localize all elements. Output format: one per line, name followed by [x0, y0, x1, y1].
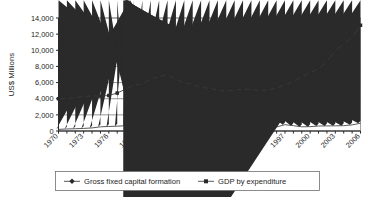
data-point-marker	[216, 88, 220, 92]
data-point-marker	[342, 42, 346, 46]
data-point-marker	[107, 94, 111, 98]
data-point-marker	[149, 77, 153, 81]
y-tick-label: 8,000	[35, 62, 54, 71]
data-point-marker	[124, 87, 128, 91]
y-tick-label: 2,000	[35, 111, 54, 120]
chart-figure: 02,0004,0006,0008,00010,00012,00014,000 …	[0, 0, 376, 197]
legend-marker	[204, 179, 208, 183]
y-tick-label: 6,000	[35, 78, 54, 87]
data-point-marker	[317, 67, 321, 71]
data-point-marker	[199, 86, 203, 90]
data-point-marker	[115, 91, 119, 95]
data-point-marker	[141, 82, 145, 86]
data-point-marker	[74, 96, 78, 100]
data-point-marker	[266, 88, 270, 92]
data-point-marker	[258, 89, 262, 93]
data-point-marker	[90, 94, 94, 98]
data-point-marker	[308, 71, 312, 75]
data-point-marker	[300, 75, 304, 79]
data-point-marker	[350, 36, 354, 40]
y-tick-label: 14,000	[31, 14, 54, 23]
data-point-marker	[82, 95, 86, 99]
y-axis	[56, 18, 59, 132]
y-tick-labels: 02,0004,0006,0008,00010,00012,00014,000	[31, 14, 54, 136]
x-tick-label: 1973	[67, 132, 85, 150]
data-point-marker	[359, 24, 363, 28]
data-series-group	[56, 0, 362, 197]
data-point-marker	[157, 75, 161, 79]
data-point-marker	[283, 83, 287, 87]
data-point-marker	[225, 89, 229, 93]
y-tick-label: 10,000	[31, 46, 54, 55]
data-point-marker	[183, 81, 187, 85]
data-point-marker	[99, 94, 103, 98]
data-point-marker	[65, 97, 69, 101]
line-chart: 02,0004,0006,0008,00010,00012,00014,000 …	[0, 0, 376, 197]
data-point-marker	[292, 80, 296, 84]
data-point-marker	[275, 86, 279, 90]
x-tick-label: 1970	[42, 132, 60, 150]
data-point-marker	[334, 49, 338, 53]
chart-legend: Gross fixed capital formationGDP by expe…	[56, 172, 320, 191]
x-tick-label: 1976	[92, 132, 110, 150]
data-point-marker	[241, 87, 245, 91]
x-tick-label: 2000	[294, 132, 312, 150]
data-point-marker	[57, 97, 61, 101]
data-point-marker	[132, 83, 136, 87]
x-tick-label: 2006	[344, 132, 362, 150]
data-point-marker	[250, 88, 254, 92]
y-axis-title: US$ Millions	[7, 53, 16, 96]
legend-label: Gross fixed capital formation	[84, 177, 180, 186]
data-point-marker	[174, 78, 178, 82]
x-tick-label: 2003	[319, 132, 337, 150]
data-point-marker	[191, 83, 195, 87]
data-point-marker	[208, 86, 212, 90]
data-point-marker	[233, 88, 237, 92]
y-tick-label: 4,000	[35, 94, 54, 103]
data-point-marker	[166, 73, 170, 77]
y-axis-title-text: US$ Millions	[7, 53, 16, 96]
series-1	[56, 0, 360, 197]
data-point-marker	[325, 60, 329, 64]
y-tick-label: 12,000	[31, 30, 54, 39]
legend-label: GDP by expenditure	[218, 177, 286, 186]
